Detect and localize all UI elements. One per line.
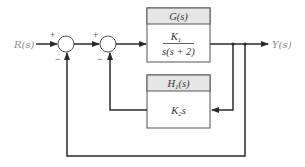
output-label: Y(s) [272,39,292,50]
g-block-denominator: s(s + 2) [162,46,195,58]
sum1-plus-sign: + [50,30,55,40]
summing-junction-1 [58,36,74,52]
sum2-plus-sign: + [93,30,98,40]
inner-feedback-to-h1-line [212,44,233,110]
summing-junction-2 [100,36,116,52]
g-block-title: G(s) [169,11,188,23]
feedback-block-h1: H1(s) K2s [147,75,210,128]
sum1-minus-sign: − [55,54,60,64]
h1-to-sum2-feedback-line [110,53,147,110]
forward-block-g: G(s) K1 s(s + 2) [147,8,210,62]
block-diagram: R(s) + − + − G(s) K1 s(s + 2) Y(s) H1(s)… [0,0,305,167]
sum2-minus-sign: − [97,54,102,64]
input-label: R(s) [13,39,35,50]
